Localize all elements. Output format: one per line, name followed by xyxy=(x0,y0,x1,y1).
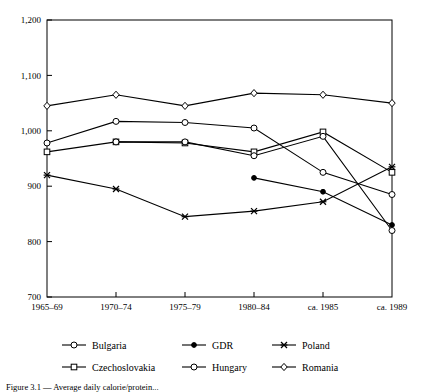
legend-marker xyxy=(71,364,77,370)
data-point xyxy=(389,192,395,198)
y-tick-label: 700 xyxy=(28,292,42,302)
chart-figure: 7008009001,0001,1001,200 1965–691970–741… xyxy=(0,0,421,392)
legend-item-gdr: GDR xyxy=(182,340,233,351)
data-point xyxy=(389,228,395,234)
y-tick-label: 800 xyxy=(28,237,42,247)
legend-marker xyxy=(191,364,197,370)
data-point xyxy=(251,125,257,131)
data-point xyxy=(320,133,326,139)
data-point xyxy=(44,149,50,155)
legend-marker xyxy=(71,342,77,348)
legend-item-hungary: Hungary xyxy=(182,362,247,373)
x-tick-label: ca. 1985 xyxy=(308,302,339,312)
x-tick-label: 1975–79 xyxy=(169,302,201,312)
legend-item-bulgaria: Bulgaria xyxy=(62,340,127,351)
legend-label: Poland xyxy=(302,340,330,351)
data-point xyxy=(321,189,326,194)
x-tick-label: 1970–74 xyxy=(100,302,132,312)
data-point xyxy=(113,139,119,145)
legend-marker xyxy=(281,342,288,348)
y-tick-label: 900 xyxy=(28,181,42,191)
legend-label: Hungary xyxy=(212,362,247,373)
data-point xyxy=(251,153,257,159)
data-point xyxy=(182,119,188,125)
legend-label: GDR xyxy=(212,340,233,351)
legend-label: Bulgaria xyxy=(92,340,127,351)
y-tick-label: 1,000 xyxy=(21,126,42,136)
legend-item-romania: Romania xyxy=(272,362,339,373)
legend-item-czechoslovakia: Czechoslovakia xyxy=(62,362,156,373)
x-tick-label: 1980–84 xyxy=(238,302,270,312)
data-point xyxy=(113,118,119,124)
legend-label: Romania xyxy=(302,362,339,373)
legend-marker xyxy=(281,363,287,370)
data-point xyxy=(44,140,50,146)
chart-legend: BulgariaGDRPolandCzechoslovakiaHungaryRo… xyxy=(62,340,339,373)
plot-border xyxy=(47,20,392,297)
x-tick-label: 1965–69 xyxy=(31,302,63,312)
data-point xyxy=(390,223,395,228)
x-tick-label: ca. 1989 xyxy=(377,302,408,312)
figure-caption: Figure 3.1 — Average daily calorie/prote… xyxy=(6,383,416,392)
y-tick-label: 1,100 xyxy=(21,71,42,81)
legend-marker xyxy=(192,343,197,348)
y-tick-label: 1,200 xyxy=(21,15,42,25)
data-point xyxy=(389,170,395,176)
legend-label: Czechoslovakia xyxy=(92,362,156,373)
legend-item-poland: Poland xyxy=(272,340,330,351)
line-chart: 7008009001,0001,1001,200 1965–691970–741… xyxy=(0,0,421,392)
plot-frame xyxy=(47,20,392,297)
data-point xyxy=(252,175,257,180)
data-point xyxy=(182,139,188,145)
data-point xyxy=(320,169,326,175)
